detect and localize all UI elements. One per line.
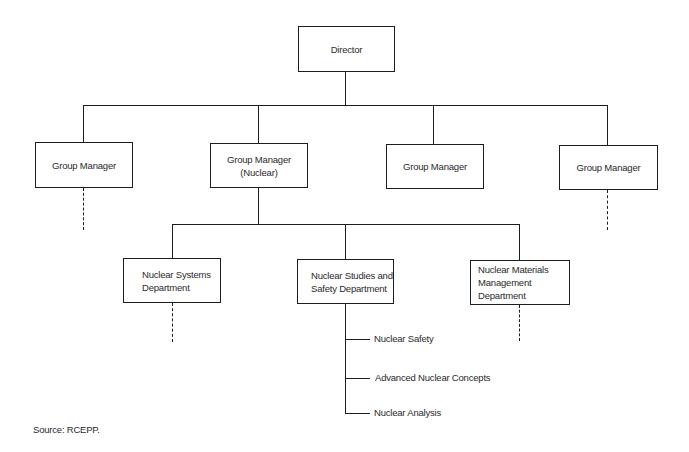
connector-nmmd-up bbox=[519, 224, 520, 260]
connector-gm2-down bbox=[258, 187, 259, 224]
connector-gm4-up bbox=[607, 105, 608, 145]
connector-level1-bar bbox=[83, 105, 608, 106]
node-label: Nuclear Studies and Safety Department bbox=[311, 269, 393, 295]
connector-nssd-up bbox=[345, 224, 346, 259]
node-nuclear-systems-dept: Nuclear Systems Department bbox=[123, 258, 221, 303]
node-label: Group Manager bbox=[577, 161, 641, 174]
connector-nsd-up bbox=[172, 224, 173, 258]
node-label: Group Manager bbox=[403, 160, 467, 173]
connector-director-down bbox=[345, 71, 346, 105]
node-label: Nuclear Materials Management Department bbox=[478, 263, 569, 302]
node-label: Director bbox=[331, 43, 363, 56]
connector-gm1-dashed bbox=[83, 188, 84, 230]
node-nuclear-studies-safety-dept: Nuclear Studies and Safety Department bbox=[297, 259, 394, 304]
connector-gm1-up bbox=[83, 105, 84, 142]
connector-branch-advanced bbox=[345, 378, 370, 379]
node-group-manager-4: Group Manager bbox=[559, 145, 658, 190]
node-label: Nuclear Systems Department bbox=[142, 268, 211, 294]
node-director: Director bbox=[298, 26, 395, 72]
connector-level2-bar bbox=[172, 224, 520, 225]
connector-gm2-up bbox=[258, 105, 259, 143]
leaf-nuclear-safety: Nuclear Safety bbox=[374, 333, 434, 344]
node-nuclear-materials-mgmt-dept: Nuclear Materials Management Department bbox=[470, 260, 570, 305]
node-group-manager-nuclear: Group Manager (Nuclear) bbox=[210, 143, 308, 188]
connector-branch-analysis bbox=[345, 413, 370, 414]
connector-nssd-down bbox=[345, 303, 346, 414]
node-group-manager-3: Group Manager bbox=[386, 144, 484, 189]
source-note: Source: RCEPP. bbox=[33, 424, 100, 435]
node-label: Group Manager bbox=[52, 159, 116, 172]
connector-gm3-up bbox=[433, 105, 434, 144]
connector-gm4-dashed bbox=[607, 190, 608, 230]
leaf-advanced-nuclear-concepts: Advanced Nuclear Concepts bbox=[375, 372, 490, 383]
node-label: Group Manager (Nuclear) bbox=[211, 153, 307, 179]
connector-nmmd-dashed bbox=[519, 305, 520, 341]
connector-branch-safety bbox=[345, 339, 370, 340]
leaf-nuclear-analysis: Nuclear Analysis bbox=[374, 407, 441, 418]
node-group-manager-1: Group Manager bbox=[35, 142, 133, 188]
connector-nsd-dashed bbox=[172, 303, 173, 342]
